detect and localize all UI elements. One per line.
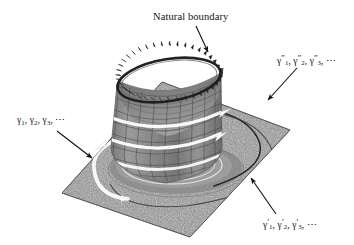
leader-gamma-prime [251, 178, 276, 214]
leader-natural-boundary [196, 26, 208, 52]
label-gamma-double-prime: γ″1, γ″2, γ″3, ⋯ [277, 54, 337, 67]
label-natural-boundary: Natural boundary [153, 11, 228, 23]
leader-gamma-double-prime [268, 68, 297, 100]
label-gamma-prime: γ′1, γ′2, γ′3, ⋯ [263, 218, 317, 231]
gamma-dp-ellipsis: ⋯ [326, 56, 337, 66]
label-gamma-plain: γ1, γ2, γ3, ⋯ [17, 115, 66, 126]
leader-gamma-plain [57, 131, 92, 158]
gamma-p-ellipsis: ⋯ [307, 220, 318, 230]
gamma-ellipsis: ⋯ [55, 115, 66, 125]
